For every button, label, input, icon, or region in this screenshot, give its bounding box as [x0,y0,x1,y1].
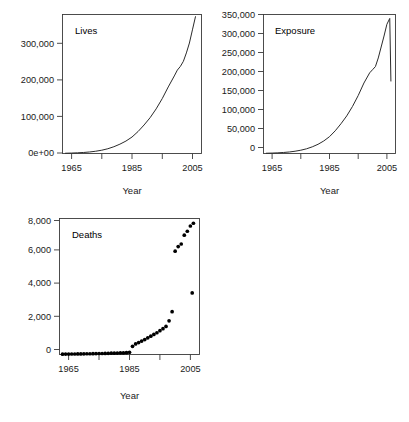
lives-ytick-label-2: 200,000 [21,75,54,85]
deaths-data-point [128,350,132,354]
deaths-data-point [182,233,186,237]
lives-x-ticks [72,154,193,160]
exposure-ytick-label-7: 350,000 [222,10,255,20]
lives-ytick-label-1: 100,000 [21,112,54,122]
exposure-panel-label: Exposure [275,25,315,36]
exposure-ytick-label-4: 200,000 [222,67,255,77]
exposure-plot-area: 0 50,000 100,000 150,000 200,000 250,000… [222,10,397,196]
deaths-plot-area: 0 2,000 4,000 6,000 8,000 1965 1985 2005… [28,216,201,401]
deaths-data-point [189,224,193,228]
panel-deaths-svg: 0 2,000 4,000 6,000 8,000 1965 1985 2005… [0,200,230,422]
deaths-data-point [155,331,159,335]
panel-lives-svg: 0e+00 100,000 200,000 300,000 1965 1985 … [0,0,212,200]
deaths-ytick-label-3: 6,000 [28,245,51,255]
deaths-data-point [158,329,162,333]
figure-root: 0e+00 100,000 200,000 300,000 1965 1985 … [0,0,409,422]
exposure-ytick-label-1: 50,000 [227,124,255,134]
deaths-xtick-label-2005: 2005 [180,364,200,374]
panel-exposure: 0 50,000 100,000 150,000 200,000 250,000… [209,0,409,200]
deaths-ytick-label-0: 0 [46,345,51,355]
exposure-ytick-label-0: 0 [250,143,255,153]
deaths-xaxis-title: Year [120,390,139,401]
exposure-ytick-label-2: 100,000 [222,105,255,115]
lives-ytick-label-3: 300,000 [21,39,54,49]
deaths-panel-label: Deaths [72,229,102,240]
deaths-xtick-label-1965: 1965 [58,364,78,374]
deaths-y-ticks [54,221,60,350]
deaths-data-point [176,245,180,249]
deaths-xtick-label-1985: 1985 [119,364,139,374]
exposure-xaxis-title: Year [320,185,339,196]
deaths-ytick-label-4: 8,000 [28,216,51,226]
exposure-ytick-label-6: 300,000 [222,29,255,39]
lives-xtick-label-1985: 1985 [122,163,142,173]
deaths-data-point [161,327,165,331]
exposure-xtick-label-1985: 1985 [319,163,339,173]
lives-xtick-label-1965: 1965 [61,163,81,173]
deaths-data-point [131,344,135,348]
lives-xtick-label-2005: 2005 [182,163,202,173]
deaths-data-point [190,291,194,295]
deaths-data-point [192,221,196,225]
lives-y-ticks [57,43,63,153]
lives-ytick-label-0: 0e+00 [28,148,54,158]
deaths-data-point [170,310,174,314]
deaths-data-point [179,242,183,246]
deaths-data-point [167,319,171,323]
lives-panel-label: Lives [75,25,97,36]
deaths-ytick-label-2: 4,000 [28,278,51,288]
deaths-data-point [164,325,168,329]
exposure-y-ticks [258,15,264,148]
panel-deaths: 0 2,000 4,000 6,000 8,000 1965 1985 2005… [0,200,230,422]
exposure-xtick-label-2005: 2005 [377,163,397,173]
exposure-x-ticks [272,154,387,160]
exposure-ytick-label-5: 250,000 [222,48,255,58]
exposure-xtick-label-1965: 1965 [262,163,282,173]
lives-plot-area: 0e+00 100,000 200,000 300,000 1965 1985 … [21,15,203,197]
panel-exposure-svg: 0 50,000 100,000 150,000 200,000 250,000… [209,0,409,200]
deaths-data-point [173,249,177,253]
lives-xaxis-title: Year [122,185,141,196]
panel-lives: 0e+00 100,000 200,000 300,000 1965 1985 … [0,0,212,200]
deaths-data-point [185,229,189,233]
deaths-ytick-label-1: 2,000 [28,312,51,322]
exposure-ytick-label-3: 150,000 [222,86,255,96]
